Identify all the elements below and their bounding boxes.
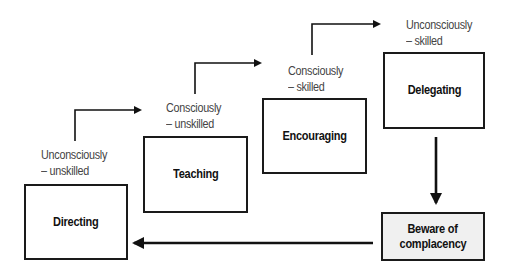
box-label: Directing — [53, 215, 98, 230]
stage-label-line1: Unconsciously — [406, 17, 472, 33]
stage-label-line1: Unconsciously — [41, 147, 107, 163]
diagram-canvas: Unconsciously – unskilled Consciously – … — [0, 0, 509, 274]
box-label-line2: complacency — [400, 237, 467, 252]
stage-label-line2: – skilled — [288, 79, 343, 95]
box-beware-of-complacency: Beware of complacency — [381, 212, 485, 261]
box-teaching: Teaching — [143, 136, 248, 213]
stage-label-line2: – skilled — [406, 33, 472, 49]
box-encouraging: Encouraging — [262, 98, 367, 174]
stage-label-line1: Consciously — [166, 100, 221, 116]
box-label-line1: Beware of — [408, 222, 458, 237]
arrow-teaching-to-encouraging — [195, 63, 260, 94]
arrow-encouraging-to-delegating — [312, 24, 379, 55]
stage-label-line1: Consciously — [288, 63, 343, 79]
stage-label-consciously-skilled: Consciously – skilled — [288, 63, 343, 95]
stage-label-line2: – unskilled — [41, 163, 107, 179]
box-directing: Directing — [24, 184, 128, 260]
stage-label-unconsciously-skilled: Unconsciously – skilled — [406, 17, 472, 49]
stage-label-line2: – unskilled — [166, 116, 221, 132]
box-delegating: Delegating — [383, 52, 485, 129]
stage-label-unconsciously-unskilled: Unconsciously – unskilled — [41, 147, 107, 179]
stage-label-consciously-unskilled: Consciously – unskilled — [166, 100, 221, 132]
arrow-directing-to-teaching — [75, 110, 140, 141]
box-label: Encouraging — [282, 129, 346, 144]
box-label: Delegating — [407, 83, 461, 98]
box-label: Teaching — [173, 167, 218, 182]
